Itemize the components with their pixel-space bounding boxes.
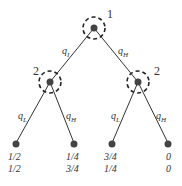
right-player-label: 2	[154, 64, 160, 79]
leaf-node-4	[165, 141, 172, 148]
payoff-2-player1: 1/4	[66, 151, 79, 162]
right-node	[135, 79, 142, 86]
edge-label-left-right: qH	[66, 110, 76, 124]
root-node	[91, 25, 98, 32]
edge-label-right-left: qL	[111, 110, 120, 124]
edge-label-right-right: qH	[156, 110, 166, 124]
root-player-label: 1	[107, 7, 113, 22]
edge-label-root-right: qH	[118, 45, 128, 59]
left-node	[47, 79, 54, 86]
game-tree-diagram: 1 2 2 qI qH qL qH qL qH 1/2 1/2 1/4 3/4 …	[0, 0, 182, 186]
payoff-4-player1: 0	[166, 151, 171, 162]
left-player-label: 2	[33, 64, 39, 79]
payoff-1-player1: 1/2	[8, 151, 21, 162]
payoff-3-player1: 3/4	[104, 151, 117, 162]
leaf-node-2	[71, 141, 78, 148]
edge-label-root-left: qI	[62, 45, 69, 59]
leaf-node-3	[109, 141, 116, 148]
payoff-4-player2: 0	[166, 163, 171, 174]
payoff-1-player2: 1/2	[8, 163, 21, 174]
tree-graphics	[0, 0, 182, 186]
leaf-node-1	[13, 141, 20, 148]
payoff-3-player2: 1/4	[104, 163, 117, 174]
edge-label-left-left: qL	[18, 110, 27, 124]
payoff-2-player2: 3/4	[66, 163, 79, 174]
